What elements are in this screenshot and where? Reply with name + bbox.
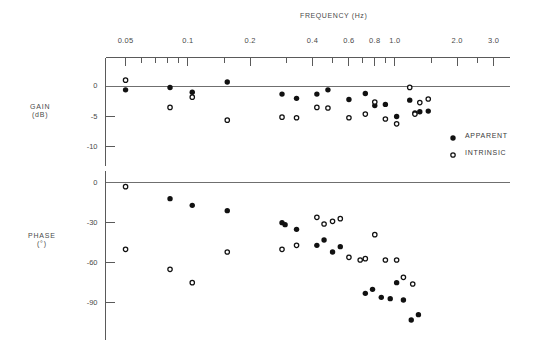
gain-point-apparent	[190, 90, 195, 95]
phase-point-apparent	[363, 291, 368, 296]
frequency-tick-label: 0.4	[307, 36, 318, 45]
gain-point-intrinsic	[394, 122, 398, 126]
phase-point-apparent	[282, 222, 287, 227]
plot-canvas	[0, 0, 534, 347]
phase-point-intrinsic	[401, 275, 405, 279]
gain-point-apparent	[394, 114, 399, 119]
legend-filled-circle-icon	[449, 134, 457, 142]
phase-tick-label: 0	[70, 178, 98, 187]
gain-point-intrinsic	[373, 100, 377, 104]
frequency-tick-label: 3.0	[488, 36, 499, 45]
phase-tick-label: -90	[70, 298, 98, 307]
phase-point-intrinsic	[294, 243, 298, 247]
gain-point-apparent	[407, 97, 412, 102]
frequency-tick-label: 2.0	[451, 36, 462, 45]
gain-point-intrinsic	[363, 112, 367, 116]
phase-point-intrinsic	[330, 219, 334, 223]
phase-point-apparent	[190, 203, 195, 208]
gain-point-intrinsic	[168, 105, 172, 109]
gain-point-apparent	[225, 79, 230, 84]
gain-point-intrinsic	[413, 112, 417, 116]
bode-plot-figure: FREQUENCY (Hz) GAIN (dB) PHASE (°) 0.050…	[0, 0, 534, 347]
gain-point-intrinsic	[408, 85, 412, 89]
gain-point-intrinsic	[426, 97, 430, 101]
gain-point-intrinsic	[190, 95, 194, 99]
phase-point-apparent	[388, 296, 393, 301]
gain-tick-label: -5	[70, 112, 98, 121]
gain-axis-label-text: GAIN	[30, 103, 50, 110]
gain-point-apparent	[417, 109, 422, 114]
phase-point-apparent	[409, 317, 414, 322]
phase-point-apparent	[321, 237, 326, 242]
gain-point-apparent	[346, 97, 351, 102]
legend-label: INTRINSIC	[465, 149, 506, 156]
gain-axis-label: GAIN (dB)	[30, 103, 50, 118]
phase-tick-label: -30	[70, 218, 98, 227]
phase-tick-label: -60	[70, 258, 98, 267]
gain-point-intrinsic	[326, 106, 330, 110]
legend-open-circle-icon	[449, 151, 457, 159]
phase-point-apparent	[330, 249, 335, 254]
phase-point-apparent	[338, 244, 343, 249]
frequency-tick-label: 0.1	[182, 36, 193, 45]
phase-point-apparent	[394, 280, 399, 285]
gain-point-intrinsic	[280, 115, 284, 119]
gain-point-intrinsic	[123, 78, 127, 82]
frequency-tick-label: 1.0	[389, 36, 400, 45]
phase-point-apparent	[225, 208, 230, 213]
phase-axis-label: PHASE (°)	[28, 232, 56, 247]
gain-point-apparent	[167, 85, 172, 90]
gain-point-apparent	[325, 87, 330, 92]
frequency-tick-label: 0.05	[118, 36, 134, 45]
phase-point-intrinsic	[280, 247, 284, 251]
gain-point-intrinsic	[418, 100, 422, 104]
phase-point-apparent	[401, 297, 406, 302]
phase-point-apparent	[314, 243, 319, 248]
gain-point-apparent	[279, 91, 284, 96]
phase-axis-unit: (°)	[28, 240, 56, 247]
legend-label: APPARENT	[465, 132, 508, 139]
phase-point-intrinsic	[322, 222, 326, 226]
gain-point-intrinsic	[347, 116, 351, 120]
phase-point-apparent	[379, 295, 384, 300]
frequency-tick-label: 0.2	[245, 36, 256, 45]
phase-point-intrinsic	[363, 256, 367, 260]
phase-point-intrinsic	[358, 258, 362, 262]
frequency-axis-title: FREQUENCY (Hz)	[300, 12, 367, 19]
phase-point-intrinsic	[411, 282, 415, 286]
phase-point-intrinsic	[123, 247, 127, 251]
gain-point-apparent	[426, 108, 431, 113]
gain-tick-label: 0	[70, 81, 98, 90]
phase-point-intrinsic	[168, 267, 172, 271]
gain-point-apparent	[314, 91, 319, 96]
phase-point-intrinsic	[347, 255, 351, 259]
gain-axis-unit: (dB)	[30, 111, 50, 118]
phase-point-intrinsic	[338, 216, 342, 220]
phase-point-intrinsic	[383, 258, 387, 262]
phase-point-intrinsic	[190, 280, 194, 284]
gain-point-apparent	[294, 96, 299, 101]
frequency-tick-label: 0.6	[343, 36, 354, 45]
phase-point-intrinsic	[373, 232, 377, 236]
gain-point-intrinsic	[315, 105, 319, 109]
gain-point-intrinsic	[294, 116, 298, 120]
phase-axis-label-text: PHASE	[28, 232, 56, 239]
gain-point-apparent	[363, 91, 368, 96]
gain-tick-label: -10	[70, 142, 98, 151]
phase-point-intrinsic	[225, 250, 229, 254]
frequency-tick-label: 0.8	[369, 36, 380, 45]
phase-point-intrinsic	[394, 258, 398, 262]
gain-point-intrinsic	[225, 118, 229, 122]
phase-point-apparent	[416, 312, 421, 317]
gain-point-apparent	[123, 87, 128, 92]
gain-point-intrinsic	[383, 117, 387, 121]
phase-point-intrinsic	[315, 215, 319, 219]
phase-point-intrinsic	[123, 184, 127, 188]
phase-point-apparent	[370, 287, 375, 292]
gain-point-apparent	[383, 102, 388, 107]
phase-point-apparent	[294, 227, 299, 232]
phase-point-apparent	[167, 196, 172, 201]
